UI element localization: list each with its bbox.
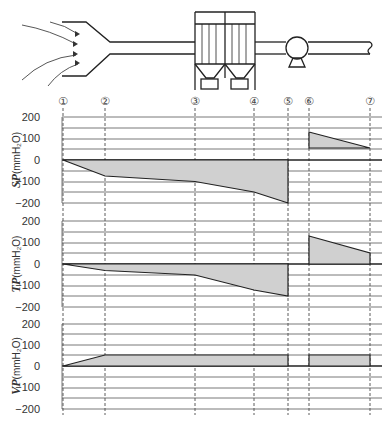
sp-tick-0: 0 bbox=[34, 154, 40, 166]
sp-tick-neg200: −200 bbox=[15, 197, 40, 209]
station-1: ① bbox=[58, 95, 68, 108]
tp-tick-neg200: −200 bbox=[15, 301, 40, 313]
sp-chart: 200 100 0 −100 −200 SP(mmH₂O) bbox=[9, 111, 382, 209]
vp-tick-neg200: −200 bbox=[15, 403, 40, 415]
station-3: ③ bbox=[190, 95, 200, 108]
tp-axis-label: TP(mmH₂O) bbox=[9, 236, 23, 293]
station-4: ④ bbox=[249, 95, 259, 108]
sp-area-1 bbox=[63, 160, 288, 203]
bag-filter-unit bbox=[195, 12, 255, 90]
pressure-diagram: ① ② ③ ④ ⑤ ⑥ ⑦ 200 100 bbox=[0, 0, 391, 431]
vp-area-1 bbox=[63, 355, 288, 366]
hood-inlet bbox=[62, 22, 195, 42]
sp-axis-label: SP(mmH₂O) bbox=[9, 132, 23, 188]
tp-tick-200: 200 bbox=[22, 215, 40, 227]
vp-tick-0: 0 bbox=[34, 360, 40, 372]
sp-tick-200: 200 bbox=[22, 111, 40, 123]
station-5: ⑤ bbox=[283, 95, 293, 108]
tp-tick-100: 100 bbox=[22, 236, 40, 248]
sp-tick-100: 100 bbox=[22, 132, 40, 144]
vp-axis-label: VP(mmH₂O) bbox=[9, 337, 23, 395]
vp-chart: 200 100 0 −100 −200 VP(mmH₂O) bbox=[9, 318, 382, 415]
fan-icon bbox=[286, 37, 308, 59]
station-labels: ① ② ③ ④ ⑤ ⑥ ⑦ bbox=[58, 95, 375, 108]
tp-area-2 bbox=[309, 236, 370, 264]
vp-tick-200: 200 bbox=[22, 318, 40, 330]
equipment-schematic bbox=[22, 12, 372, 90]
vp-tick-100: 100 bbox=[22, 339, 40, 351]
station-6: ⑥ bbox=[304, 95, 314, 108]
vp-area-2 bbox=[309, 355, 370, 366]
tp-chart: 200 100 0 −100 −200 TP(mmH₂O) bbox=[9, 215, 382, 313]
station-2: ② bbox=[100, 95, 110, 108]
station-7: ⑦ bbox=[365, 95, 375, 108]
tp-area-1 bbox=[63, 264, 288, 296]
tp-tick-0: 0 bbox=[34, 258, 40, 270]
sp-area-2 bbox=[309, 132, 370, 148]
